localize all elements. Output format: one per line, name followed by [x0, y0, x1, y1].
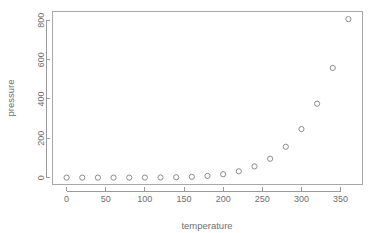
x-tick-label: 200	[216, 194, 231, 204]
y-tick-label: 400	[37, 91, 47, 106]
x-axis-title: temperature	[181, 220, 232, 231]
x-tick-label: 250	[255, 194, 270, 204]
y-tick-label: 200	[37, 131, 47, 146]
y-tick-label: 600	[37, 52, 47, 67]
x-tick-label: 50	[101, 194, 111, 204]
y-tick-label: 800	[37, 13, 47, 28]
x-tick-label: 100	[137, 194, 152, 204]
chart-screenshot: 0200400600800 050100150200250300350 pres…	[0, 0, 374, 233]
x-tick-label: 350	[333, 194, 348, 204]
x-tick-label: 300	[294, 194, 309, 204]
y-axis-title: pressure	[5, 80, 16, 117]
y-tick-label: 0	[37, 175, 47, 180]
x-tick-label: 150	[176, 194, 191, 204]
scatter-plot: 0200400600800 050100150200250300350 pres…	[0, 0, 374, 233]
x-tick-label: 0	[64, 194, 69, 204]
